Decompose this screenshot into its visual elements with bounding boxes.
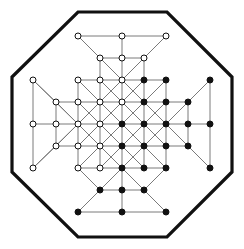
lattice-node-open bbox=[53, 143, 59, 149]
lattice-node-open bbox=[97, 99, 103, 105]
diagram-canvas bbox=[0, 0, 244, 249]
lattice-node-filled bbox=[119, 143, 125, 149]
lattice-node-filled bbox=[185, 99, 191, 105]
lattice-node-open bbox=[75, 143, 81, 149]
lattice-node-filled bbox=[185, 121, 191, 127]
lattice-node-open bbox=[53, 121, 59, 127]
lattice-node-open bbox=[75, 77, 81, 83]
lattice-node-filled bbox=[163, 143, 169, 149]
lattice-node-open bbox=[163, 33, 169, 39]
lattice-node-open bbox=[75, 121, 81, 127]
lattice-node-filled bbox=[141, 165, 147, 171]
lattice-node-filled bbox=[163, 165, 169, 171]
lattice-node-open bbox=[97, 165, 103, 171]
lattice-node-open bbox=[30, 121, 36, 127]
lattice-node-filled bbox=[119, 209, 125, 215]
lattice-node-open bbox=[141, 55, 147, 61]
lattice-node-open bbox=[53, 99, 59, 105]
lattice-node-filled bbox=[207, 165, 213, 171]
lattice-node-open bbox=[97, 143, 103, 149]
lattice-node-filled bbox=[163, 209, 169, 215]
lattice-node-filled bbox=[141, 77, 147, 83]
lattice-node-filled bbox=[141, 143, 147, 149]
lattice-node-filled bbox=[163, 77, 169, 83]
lattice-node-open bbox=[119, 55, 125, 61]
lattice-node-open bbox=[119, 33, 125, 39]
lattice-node-open bbox=[97, 77, 103, 83]
lattice-node-filled bbox=[141, 187, 147, 193]
lattice-node-filled bbox=[119, 121, 125, 127]
lattice-node-open bbox=[97, 121, 103, 127]
lattice-node-filled bbox=[185, 143, 191, 149]
lattice-node-filled bbox=[141, 121, 147, 127]
lattice-node-open bbox=[75, 33, 81, 39]
lattice-node-open bbox=[97, 55, 103, 61]
lattice-node-filled bbox=[119, 187, 125, 193]
lattice-node-filled bbox=[163, 121, 169, 127]
lattice-node-open bbox=[75, 99, 81, 105]
lattice-node-filled bbox=[141, 99, 147, 105]
lattice-node-filled bbox=[97, 187, 103, 193]
lattice-node-filled bbox=[207, 77, 213, 83]
lattice-node-open bbox=[119, 99, 125, 105]
lattice-node-filled bbox=[163, 99, 169, 105]
lattice-node-open bbox=[119, 77, 125, 83]
lattice-node-filled bbox=[75, 209, 81, 215]
lattice-node-open bbox=[30, 165, 36, 171]
lattice-node-filled bbox=[207, 121, 213, 127]
lattice-node-open bbox=[75, 165, 81, 171]
octagon-lattice-figure bbox=[0, 0, 244, 249]
lattice-node-filled bbox=[119, 165, 125, 171]
lattice-node-open bbox=[30, 77, 36, 83]
